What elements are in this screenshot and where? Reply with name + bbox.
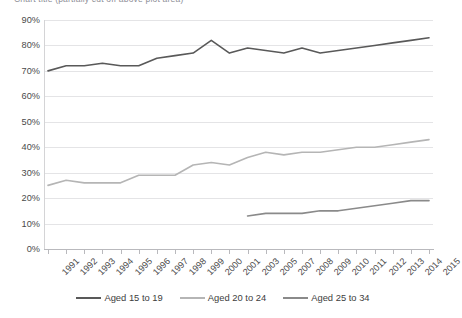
x-axis-tick-label: 2008 (314, 256, 335, 277)
chart-legend: Aged 15 to 19Aged 20 to 24Aged 25 to 34 (0, 292, 446, 303)
x-axis-tick-label: 2003 (259, 256, 280, 277)
y-axis-tick-label: 20% (6, 193, 40, 203)
x-axis-tick-label: 2005 (278, 256, 299, 277)
legend-item[interactable]: Aged 25 to 34 (283, 292, 369, 303)
x-axis-tick (429, 250, 430, 254)
y-axis-tick-label: 30% (6, 168, 40, 178)
x-axis-tick-label: 2015 (441, 256, 462, 277)
x-axis-tick-label: 1995 (132, 256, 153, 277)
x-axis-tick (320, 250, 321, 254)
x-axis-tick (121, 250, 122, 254)
gridline (44, 147, 433, 148)
x-axis-tick-label: 2011 (368, 256, 389, 277)
y-axis-tick-label: 40% (6, 142, 40, 152)
x-axis-tick (211, 250, 212, 254)
gridline (44, 45, 433, 46)
x-axis-tick-label: 1998 (187, 256, 208, 277)
x-axis-tick (157, 250, 158, 254)
gridline (44, 20, 433, 21)
y-axis-labels: 90%80%70%60%50%40%30%20%10%0% (0, 0, 40, 270)
x-axis-tick (338, 250, 339, 254)
y-axis-tick-label: 90% (6, 15, 40, 25)
x-axis-tick (193, 250, 194, 254)
x-axis-tick (175, 250, 176, 254)
x-axis-tick-label: 1991 (60, 256, 81, 277)
x-axis-tick (284, 250, 285, 254)
chart-title-clipped: Chart title (partially cut off above plo… (0, 0, 446, 9)
x-axis-tick-label: 2012 (386, 256, 407, 277)
x-axis-tick-label: 2013 (405, 256, 426, 277)
legend-label: Aged 20 to 24 (208, 292, 266, 303)
gridline (44, 198, 433, 199)
x-axis-tick (66, 250, 67, 254)
y-axis-tick-label: 0% (6, 244, 40, 254)
legend-item[interactable]: Aged 20 to 24 (180, 292, 266, 303)
x-axis-tick (393, 250, 394, 254)
x-axis-tick-label: 2014 (423, 256, 444, 277)
x-axis-tick (411, 250, 412, 254)
x-axis-tick (356, 250, 357, 254)
x-axis-tick (48, 250, 49, 254)
x-axis-tick-label: 1999 (205, 256, 226, 277)
y-axis-tick-label: 10% (6, 219, 40, 229)
x-axis-tick (375, 250, 376, 254)
x-axis-tick-label: 1992 (78, 256, 99, 277)
gridline (44, 173, 433, 174)
gridline (44, 224, 433, 225)
plot-area (44, 20, 433, 249)
gridline (44, 122, 433, 123)
x-axis-tick-label: 2007 (296, 256, 317, 277)
gridline (44, 96, 433, 97)
x-axis-tick (229, 250, 230, 254)
x-axis-tick-label: 2009 (332, 256, 353, 277)
x-axis-tick-label: 2001 (241, 256, 262, 277)
legend-label: Aged 25 to 34 (311, 292, 369, 303)
x-axis-tick-label: 1993 (96, 256, 117, 277)
x-axis-tick (266, 250, 267, 254)
y-axis-tick-label: 70% (6, 66, 40, 76)
legend-item[interactable]: Aged 15 to 19 (76, 292, 162, 303)
legend-line-swatch (180, 297, 205, 299)
x-axis-tick (302, 250, 303, 254)
y-axis-tick-label: 80% (6, 40, 40, 50)
x-axis-tick-label: 1994 (114, 256, 135, 277)
x-axis-tick-label: 1997 (169, 256, 190, 277)
y-axis-tick-label: 60% (6, 91, 40, 101)
gridline (44, 71, 433, 72)
legend-label: Aged 15 to 19 (104, 292, 162, 303)
x-axis-tick (84, 250, 85, 254)
y-axis-line (44, 20, 45, 250)
x-axis-tick (139, 250, 140, 254)
x-axis-tick-label: 1996 (151, 256, 172, 277)
x-axis-tick-label: 2000 (223, 256, 244, 277)
legend-line-swatch (76, 297, 101, 299)
y-axis-tick-label: 50% (6, 117, 40, 127)
x-axis-tick-label: 2010 (350, 256, 371, 277)
x-axis-tick (248, 250, 249, 254)
legend-line-swatch (283, 297, 308, 299)
x-axis-tick (102, 250, 103, 254)
